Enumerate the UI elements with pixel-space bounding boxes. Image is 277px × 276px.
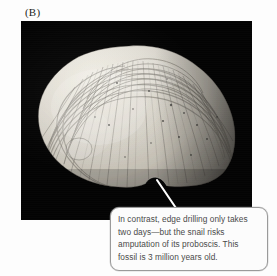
shell-svg [21,21,252,220]
callout-caption-text: In contrast, edge drilling only takes tw… [118,213,262,263]
callout-bubble: In contrast, edge drilling only takes tw… [110,207,268,271]
shell-illustration [21,21,252,220]
fossil-shell-photo [21,21,252,220]
panel-label: (B) [25,5,40,19]
figure-panel-b: (B) [0,0,277,276]
